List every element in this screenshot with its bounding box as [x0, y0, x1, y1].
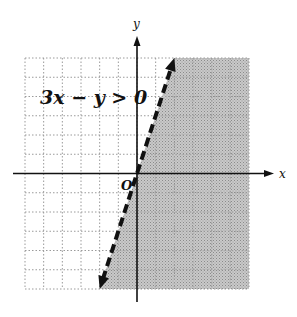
- x-axis-arrow-icon: [264, 170, 274, 177]
- arrow-up-icon: [165, 58, 175, 72]
- inequality-graph: 3x − y > 0 y x O: [0, 0, 297, 317]
- y-axis-label: y: [132, 17, 140, 31]
- y-axis-arrow-icon: [134, 36, 141, 46]
- x-axis-label: x: [279, 167, 286, 181]
- inequality-label: 3x − y > 0: [40, 86, 147, 108]
- origin-label: O: [121, 178, 133, 193]
